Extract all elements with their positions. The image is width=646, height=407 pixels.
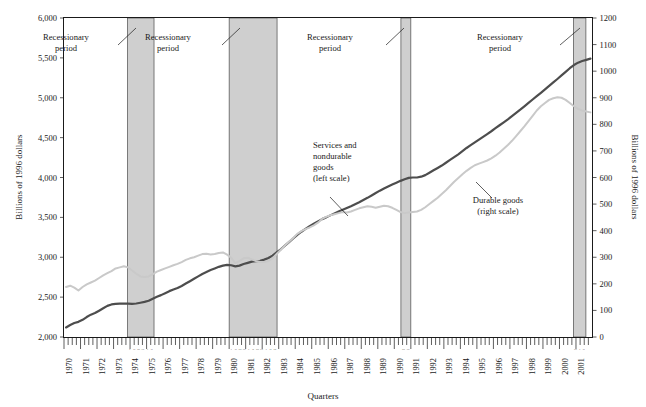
y-left-tick-label: 3,000 [38, 252, 57, 262]
x-axis-year-label: 1973 [115, 358, 124, 375]
x-axis-year-label: 1981 [247, 358, 256, 375]
band-quarter-mark: III [256, 347, 259, 351]
band-quarter-mark: IV [407, 347, 411, 351]
y-right-tick-label: 300 [600, 252, 613, 262]
x-axis-year-label: 2001 [577, 358, 586, 375]
recession-band-2 [229, 18, 277, 337]
series-label-services-line: (left scale) [313, 173, 350, 183]
y-right-tick-label: 1000 [600, 66, 617, 76]
x-axis-year-label: 1987 [346, 358, 355, 375]
band-quarter-mark: II [583, 347, 585, 351]
y-right-tick-label: 100 [600, 305, 613, 315]
x-axis-year-label: 1970 [65, 358, 74, 375]
recession-bands-layer [128, 18, 586, 337]
y-left-tick-label: 2,000 [38, 332, 57, 342]
x-axis-year-label: 1994 [462, 357, 471, 375]
recession-callout-1-line: Recessionary [43, 32, 90, 42]
band-quarter-mark: III [273, 347, 276, 351]
x-axis-year-label: 1977 [181, 358, 190, 375]
x-axis-year-label: 1999 [544, 358, 553, 375]
y-axis-right-title: Billions of 1996 dollars [630, 134, 640, 220]
band-quarter-mark: II [252, 347, 254, 351]
recession-callout-2-line: period [157, 43, 180, 53]
annotations-layer: RecessionaryperiodRecessionaryperiodRece… [43, 28, 580, 216]
y-left-tick-label: 2,500 [38, 292, 57, 302]
band-quarter-mark: II [133, 347, 135, 351]
x-axis-year-label: 1972 [98, 358, 107, 375]
recession-callout-4-line: period [489, 43, 512, 53]
x-axis-year-label: 1989 [379, 358, 388, 375]
y-right-tick-label: 500 [600, 199, 613, 209]
y-left-tick-label: 3,500 [38, 212, 57, 222]
x-axis-year-labels: 1970197119721973197419751976197719781979… [65, 357, 586, 375]
recession-callout-2-line: Recessionary [145, 32, 192, 42]
y-right-tick-label: 400 [600, 226, 613, 236]
band-quarter-mark: III [239, 347, 242, 351]
series-label-services-line: goods [313, 162, 334, 172]
y-right-tick-label: 700 [600, 146, 613, 156]
x-axis-year-label: 1998 [528, 358, 537, 375]
x-axis-year-label: 1990 [396, 358, 405, 375]
y-axis-left-title: Billions of 1996 dollars [14, 134, 24, 220]
x-axis-year-label: 1983 [280, 358, 289, 375]
band-quarter-mark: IV [141, 347, 145, 351]
y-right-tick-label: 1200 [600, 13, 617, 23]
x-axis-year-label: 1980 [230, 358, 239, 375]
x-axis-year-label: 1988 [363, 358, 372, 375]
band-quarter-mark: IV [260, 347, 264, 351]
y-axis-right: 1200110010009008007006005004003002001000 [593, 13, 617, 342]
band-quarter-mark: I [248, 347, 249, 351]
band-quarter-mark: II [270, 347, 272, 351]
x-axis-year-label: 1974 [131, 357, 140, 375]
x-axis-year-label: 1985 [313, 358, 322, 375]
chart-canvas: 6,0005,5005,0004,5004,0003,5003,0002,500… [0, 0, 646, 407]
y-left-tick-label: 4,000 [38, 173, 57, 183]
y-left-tick-label: 5,000 [38, 93, 57, 103]
x-axis-year-label: 1984 [296, 357, 305, 375]
band-quarter-mark: II [151, 347, 153, 351]
y-right-tick-label: 0 [600, 332, 604, 342]
y-left-tick-label: 6,000 [38, 13, 57, 23]
y-left-tick-label: 4,500 [38, 133, 57, 143]
y-right-tick-label: 800 [600, 119, 613, 129]
x-axis-year-label: 1975 [148, 358, 157, 375]
x-axis-year-label: 1993 [445, 358, 454, 375]
band-quarter-mark: II [235, 347, 237, 351]
x-axis-year-label: 1986 [330, 358, 339, 375]
x-axis-year-label: 1996 [495, 358, 504, 375]
band-quarter-mark: I [147, 347, 148, 351]
x-axis-year-label: 2000 [561, 358, 570, 375]
band-quarter-mark: I [129, 347, 130, 351]
band-quarter-marks: IIIIIIIVIIIIIIIIIIVIIIIIIIVIIIIIIIIIIVIV… [129, 347, 585, 351]
band-quarter-mark: IV [243, 347, 247, 351]
x-axis-year-label: 1978 [197, 358, 206, 375]
recession-callout-1-line: period [55, 43, 78, 53]
y-right-tick-label: 200 [600, 279, 613, 289]
x-axis-year-label: 1995 [478, 358, 487, 375]
recession-band-4 [574, 18, 586, 337]
recession-band-1 [128, 18, 154, 337]
recession-callout-3-line: period [319, 43, 342, 53]
y-right-tick-label: 600 [600, 173, 613, 183]
band-quarter-mark: III [402, 347, 405, 351]
series-label-services-line: nondurable [313, 151, 352, 161]
x-axis-year-label: 1992 [429, 358, 438, 375]
band-quarter-mark: I [231, 347, 232, 351]
x-axis-year-label: 1979 [214, 358, 223, 375]
recession-callout-3-line: Recessionary [307, 32, 354, 42]
series-label-durables-line: Durable goods [473, 195, 524, 205]
series-label-durables-line: (right scale) [477, 206, 518, 216]
band-quarter-mark: I [266, 347, 267, 351]
y-right-tick-label: 900 [600, 93, 613, 103]
x-axis-year-label: 1991 [412, 358, 421, 375]
y-right-tick-label: 1100 [600, 40, 617, 50]
x-axis-title: Quarters [308, 391, 339, 401]
x-axis-year-label: 1971 [82, 358, 91, 375]
band-quarter-mark: I [579, 347, 580, 351]
band-quarter-mark: IV [574, 347, 578, 351]
x-axis-year-label: 1976 [164, 358, 173, 375]
x-axis-year-label: 1982 [263, 358, 272, 375]
x-axis-year-label: 1997 [511, 358, 520, 375]
band-quarter-mark: III [137, 347, 140, 351]
recession-callout-4-line: Recessionary [477, 32, 524, 42]
